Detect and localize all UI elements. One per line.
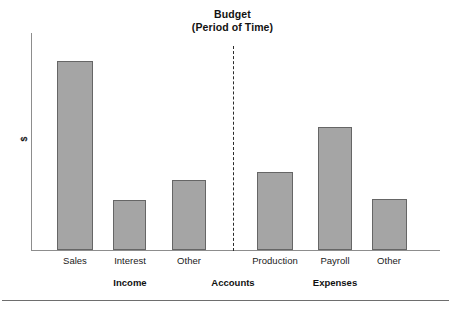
bar-other-income bbox=[172, 180, 206, 250]
bar-interest bbox=[113, 200, 146, 250]
category-label-other-expenses: Other bbox=[344, 255, 434, 266]
bar-other-expenses bbox=[372, 199, 407, 250]
chart-title: Budget (Period of Time) bbox=[150, 8, 315, 34]
chart-title-main: Budget bbox=[150, 8, 315, 21]
category-label-other-income: Other bbox=[144, 255, 234, 266]
bar-sales bbox=[57, 61, 93, 250]
chart-title-subtitle: (Period of Time) bbox=[150, 21, 315, 34]
x-axis-line bbox=[31, 250, 440, 251]
footer-divider-rule bbox=[2, 300, 449, 301]
group-label-expenses: Expenses bbox=[290, 277, 380, 288]
group-label-accounts: Accounts bbox=[188, 277, 278, 288]
income-expenses-divider bbox=[233, 46, 234, 251]
y-axis-line bbox=[31, 33, 32, 251]
y-axis-label: $ bbox=[19, 130, 29, 148]
budget-bar-chart: Budget (Period of Time) $ Sales Interest… bbox=[0, 0, 451, 310]
bar-production bbox=[257, 172, 293, 250]
group-label-income: Income bbox=[85, 277, 175, 288]
bar-payroll bbox=[318, 127, 352, 250]
